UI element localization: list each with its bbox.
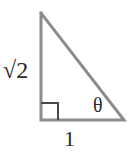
label-base-leg: 1 xyxy=(64,128,75,150)
right-angle-marker-icon xyxy=(41,103,58,120)
label-vertical-leg: √2 xyxy=(3,58,28,82)
label-angle-theta: θ xyxy=(93,95,103,115)
right-triangle-diagram: √2 1 θ xyxy=(0,0,132,156)
